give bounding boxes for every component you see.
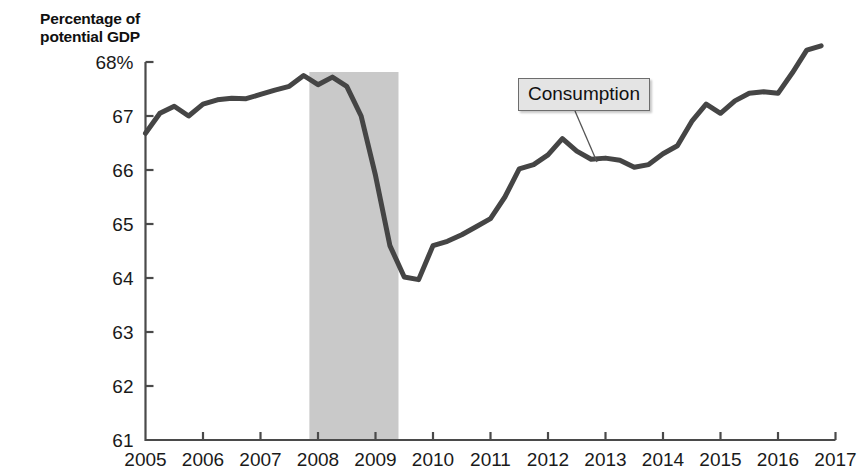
x-axis-tick-label: 2007	[239, 449, 281, 470]
x-axis-tick-label: 2015	[699, 449, 741, 470]
series-line-consumption	[146, 46, 822, 280]
x-axis-tick-label: 2016	[757, 449, 799, 470]
x-axis-tick-label: 2005	[124, 449, 166, 470]
y-axis-tick-label: 63	[112, 322, 133, 343]
y-axis-tick-label: 67	[112, 106, 133, 127]
y-axis-tick-label: 64	[112, 268, 134, 289]
consumption-callout-label: Consumption	[518, 78, 650, 111]
y-axis-tick-label: 61	[112, 430, 133, 451]
x-axis-tick-label: 2017	[814, 449, 856, 470]
y-axis-tick-label: 66	[112, 160, 133, 181]
consumption-line-chart: 68%6766656463626120052006200720082009201…	[0, 0, 861, 475]
x-axis-tick-label: 2009	[354, 449, 396, 470]
x-axis-tick-label: 2008	[297, 449, 339, 470]
y-axis-tick-label: 68%	[95, 52, 133, 73]
x-axis-tick-label: 2012	[527, 449, 569, 470]
x-axis-tick-label: 2006	[182, 449, 224, 470]
x-axis-tick-label: 2014	[642, 449, 685, 470]
x-axis-tick-label: 2013	[584, 449, 626, 470]
chart-figure: Percentage of potential GDP 68%676665646…	[0, 0, 861, 475]
x-axis-tick-label: 2011	[470, 449, 511, 470]
x-axis-tick-label: 2010	[412, 449, 454, 470]
y-axis-tick-label: 62	[112, 376, 133, 397]
axis-lines	[146, 62, 836, 440]
recession-shaded-band	[309, 72, 398, 440]
y-axis-tick-label: 65	[112, 214, 133, 235]
